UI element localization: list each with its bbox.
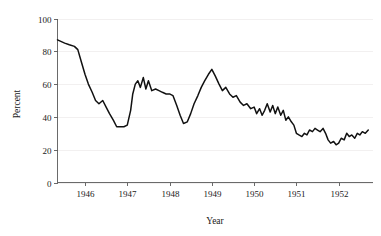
x-tick-label: 1947 — [119, 189, 138, 199]
line-chart: 020406080100 194619471948194919501951195… — [0, 0, 381, 236]
y-tick-label: 20 — [43, 146, 53, 156]
y-tick-label: 40 — [43, 113, 53, 123]
x-tick-label: 1948 — [162, 189, 181, 199]
y-tick-label: 80 — [43, 47, 53, 57]
x-tick-group: 1946194719481949195019511952 — [77, 183, 349, 199]
y-tick-group: 020406080100 — [38, 15, 58, 189]
x-tick-label: 1952 — [331, 189, 349, 199]
x-tick-label: 1951 — [288, 189, 306, 199]
data-series-line — [58, 40, 369, 145]
gridlines-group — [58, 20, 373, 184]
y-tick-label: 0 — [47, 179, 52, 189]
x-tick-label: 1949 — [204, 189, 223, 199]
y-tick-label: 100 — [38, 15, 52, 25]
y-tick-label: 60 — [43, 80, 53, 90]
x-axis-group: 1946194719481949195019511952 — [58, 183, 373, 199]
y-axis-group: 020406080100 — [38, 15, 58, 189]
y-axis-label: Percent — [12, 89, 22, 118]
x-axis-label: Year — [206, 216, 224, 226]
x-tick-label: 1946 — [77, 189, 96, 199]
chart-container: 020406080100 194619471948194919501951195… — [0, 0, 381, 236]
x-tick-label: 1950 — [246, 189, 265, 199]
